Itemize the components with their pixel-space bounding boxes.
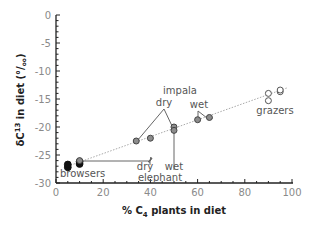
x-tick-labels: 020406080100 (53, 187, 302, 198)
data-point-grazers (265, 98, 271, 104)
x-tick-label: 80 (238, 187, 251, 198)
x-axis-title: % C4 plants in diet (122, 205, 226, 219)
data-point-impala-wet (206, 114, 212, 120)
label-browsers: browsers (60, 168, 105, 179)
data-point-impala-dry (133, 138, 139, 144)
x-tick-label: 100 (282, 187, 301, 198)
y-axis-title: δC13 in diet (°/oo) (14, 53, 27, 146)
label-elephant-wet: wet (165, 161, 183, 172)
y-tick-label: -30 (35, 178, 51, 189)
y-tick-label: -20 (35, 122, 51, 133)
data-point-impala-wet (195, 117, 201, 123)
x-tick-label: 0 (53, 187, 59, 198)
data-point-grazers (265, 90, 271, 96)
data-point-elephant-dry (77, 158, 83, 164)
y-tick-label: -5 (41, 38, 51, 49)
label-elephant: elephant (138, 172, 182, 183)
y-tick-labels: 0-5-10-15-20-25-30 (35, 10, 51, 189)
label-impala-dry: dry (156, 97, 172, 108)
y-tick-label: -25 (35, 150, 51, 161)
data-point-elephant-wet (171, 127, 177, 133)
label-elephant-dry: dry (137, 161, 153, 172)
y-tick-label: -10 (35, 66, 51, 77)
y-tick-label: -15 (35, 94, 51, 105)
data-point-elephant-dry (147, 135, 153, 141)
y-tick-label: 0 (45, 10, 51, 21)
label-impala-wet: wet (190, 99, 208, 110)
x-tick-label: 40 (144, 187, 157, 198)
x-tick-label: 60 (191, 187, 204, 198)
label-grazers: grazers (256, 105, 293, 116)
data-point-browsers (64, 161, 71, 168)
trend-line (68, 88, 287, 166)
scatter-chart: 0-5-10-15-20-25-30 020406080100 δC13 in … (0, 0, 311, 226)
label-impala: impala (163, 85, 197, 96)
x-tick-label: 20 (97, 187, 110, 198)
data-point-grazers (277, 87, 283, 93)
